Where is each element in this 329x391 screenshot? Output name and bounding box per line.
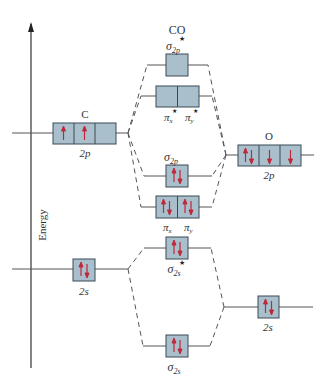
oxygen-2s-label: 2s xyxy=(263,321,273,333)
oxygen-label: O xyxy=(265,130,273,142)
carbon-2s-label: 2s xyxy=(79,285,89,297)
oxygen-2p: O 2p xyxy=(226,130,314,181)
axis-label: Energy xyxy=(36,209,48,241)
antibonding-star-icon: ★ xyxy=(179,259,185,267)
antibonding-star-icon: ★ xyxy=(179,35,185,43)
svg-text:πx: πx xyxy=(163,221,173,235)
mo-pi-star-2p: πx πy ★ ★ xyxy=(141,86,212,125)
axis-arrow-icon xyxy=(28,22,34,32)
mo-sigma-2p: σ2p xyxy=(144,150,212,187)
carbon-2s: 2s xyxy=(12,259,128,297)
antibonding-star-icon: ★ xyxy=(172,107,177,114)
oxygen-2s: 2s xyxy=(224,296,313,333)
carbon-2p: C 2p xyxy=(12,108,128,159)
energy-axis: Energy xyxy=(28,22,48,368)
carbon-label: C xyxy=(81,108,88,120)
svg-text:πy: πy xyxy=(184,221,194,235)
svg-text:σ2p: σ2p xyxy=(166,39,180,55)
mo-sigma-star-2s: σ2s ★ xyxy=(144,237,211,278)
mo-pi-2p: πx πy xyxy=(141,196,212,235)
mo-sigma-star-2p: σ2p ★ xyxy=(147,35,208,76)
oxygen-2p-label: 2p xyxy=(264,169,276,181)
carbon-2p-label: 2p xyxy=(80,147,92,159)
antibonding-star-icon: ★ xyxy=(193,107,198,114)
mo-diagram: Energy CO C 2p 2s xyxy=(0,0,329,391)
svg-text:σ2p: σ2p xyxy=(164,150,178,166)
svg-text:σ2s: σ2s xyxy=(167,360,180,376)
mo-sigma-2s: σ2s xyxy=(143,335,210,376)
